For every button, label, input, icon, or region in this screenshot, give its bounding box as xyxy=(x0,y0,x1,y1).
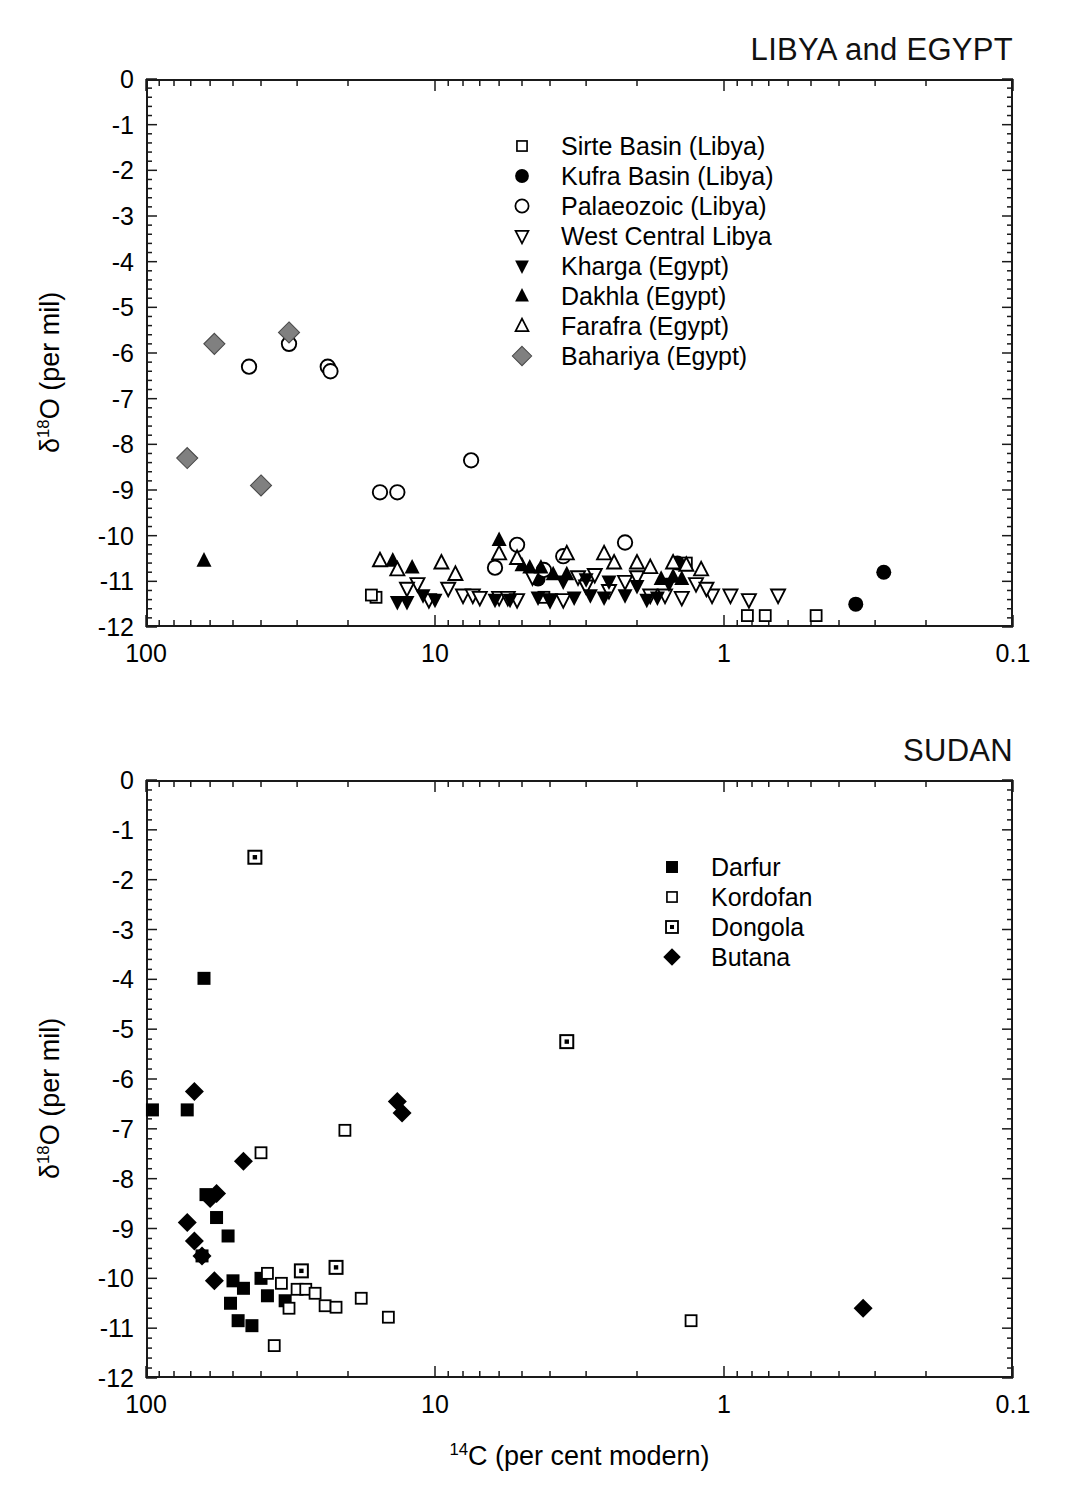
legend-bottom: DarfurKordofanDongolaButana xyxy=(655,852,812,972)
data-point xyxy=(222,1229,235,1242)
data-point xyxy=(224,1297,237,1310)
y-tick-label: -4 xyxy=(50,965,134,994)
data-point xyxy=(295,1264,308,1277)
data-point xyxy=(237,1282,250,1295)
y-tick-label: -12 xyxy=(50,1364,134,1393)
y-tick-label: 0 xyxy=(50,766,134,795)
legend-item-label: Butana xyxy=(689,943,790,972)
figure-caption xyxy=(60,1472,1020,1488)
data-point xyxy=(146,1103,159,1116)
y-axis-title-bottom: δ18O (per mil) xyxy=(34,1018,66,1179)
y-axis-title-text: δ18O (per mil) xyxy=(35,1018,65,1179)
x-tick-label: 100 xyxy=(125,1390,167,1419)
data-point xyxy=(330,1261,343,1274)
y-tick-label: -2 xyxy=(50,865,134,894)
x-tick-label: 1 xyxy=(717,1390,731,1419)
data-point xyxy=(356,1293,367,1304)
data-point xyxy=(185,1082,204,1101)
x-tick-label: 0.1 xyxy=(996,1390,1031,1419)
figure-root: LIBYA and EGYPT 0-1-2-3-4-5-6-7-8-9-10-1… xyxy=(0,0,1067,1495)
data-point xyxy=(269,1340,280,1351)
legend-item-kordofan[interactable]: Kordofan xyxy=(655,882,812,912)
filled-diamond-icon xyxy=(655,944,689,970)
series-dongola xyxy=(248,851,573,1278)
data-point xyxy=(234,1152,253,1171)
legend-item-label: Darfur xyxy=(689,853,780,882)
data-point xyxy=(181,1103,194,1116)
data-point xyxy=(197,972,210,985)
dotted-square-icon xyxy=(655,914,689,940)
data-point xyxy=(210,1211,223,1224)
data-point xyxy=(383,1312,394,1323)
y-tick-label: -9 xyxy=(50,1214,134,1243)
data-point xyxy=(560,1035,573,1048)
x-axis-title-text: 14C (per cent modern) xyxy=(449,1441,709,1471)
open-square-icon xyxy=(655,884,689,910)
data-point xyxy=(284,1303,295,1314)
data-point xyxy=(310,1288,321,1299)
data-point xyxy=(245,1319,258,1332)
data-point xyxy=(854,1299,873,1318)
data-point xyxy=(331,1302,342,1313)
data-point xyxy=(276,1278,287,1289)
legend-item-butana[interactable]: Butana xyxy=(655,942,812,972)
data-point xyxy=(261,1289,274,1302)
data-point xyxy=(178,1213,197,1232)
y-tick-label: -11 xyxy=(50,1314,134,1343)
y-tick-label: -1 xyxy=(50,815,134,844)
data-point xyxy=(232,1314,245,1327)
data-point xyxy=(205,1271,224,1290)
data-point xyxy=(248,851,261,864)
data-point xyxy=(320,1300,331,1311)
data-point xyxy=(686,1315,697,1326)
data-point xyxy=(339,1125,350,1136)
legend-item-darfur[interactable]: Darfur xyxy=(655,852,812,882)
data-point xyxy=(262,1268,273,1279)
legend-item-label: Dongola xyxy=(689,913,804,942)
legend-item-label: Kordofan xyxy=(689,883,812,912)
data-point xyxy=(256,1147,267,1158)
legend-item-dongola[interactable]: Dongola xyxy=(655,912,812,942)
filled-square-icon xyxy=(655,854,689,880)
y-tick-label: -3 xyxy=(50,915,134,944)
x-axis-title: 14C (per cent modern) xyxy=(449,1440,709,1472)
x-tick-label: 10 xyxy=(421,1390,449,1419)
y-tick-label: -10 xyxy=(50,1264,134,1293)
series-kordofan xyxy=(256,1125,697,1351)
data-markers-bottom xyxy=(0,0,1067,1495)
